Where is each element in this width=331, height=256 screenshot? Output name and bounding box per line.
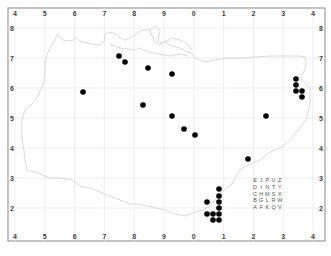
tetrad-letter: V — [278, 204, 282, 210]
record-dot — [204, 211, 210, 217]
y-label-left: 4 — [10, 145, 14, 152]
x-label-bottom: 3 — [281, 233, 285, 240]
x-label-top: 0 — [192, 10, 196, 17]
x-label-top: 6 — [73, 10, 77, 17]
record-dot — [169, 113, 175, 119]
record-dot — [122, 59, 128, 65]
record-dot — [299, 94, 305, 100]
tetrad-letter: M — [265, 191, 270, 197]
tetrad-letter: J — [260, 177, 263, 183]
y-label-left: 2 — [10, 205, 14, 212]
x-label-top: 1 — [222, 10, 226, 17]
y-label-right: 6 — [319, 85, 323, 92]
y-label-right: 5 — [319, 115, 323, 122]
y-label-right: 3 — [319, 175, 323, 182]
x-label-bottom: 6 — [73, 233, 77, 240]
record-dot — [216, 217, 222, 223]
tetrad-letter: K — [266, 204, 270, 210]
record-dot — [204, 199, 210, 205]
y-label-right: 7 — [319, 55, 323, 62]
x-label-bottom: 2 — [251, 233, 255, 240]
tetrad-letter: C — [253, 191, 257, 197]
x-label-bottom: 5 — [43, 233, 47, 240]
tetrad-letter: Q — [271, 204, 276, 210]
x-label-bottom: 8 — [132, 233, 136, 240]
tetrad-letter: P — [266, 177, 270, 183]
record-dot — [181, 126, 187, 132]
tetrad-letter: S — [272, 191, 276, 197]
record-dot — [145, 65, 151, 71]
x-label-bottom: 0 — [192, 233, 196, 240]
y-label-left: 7 — [10, 55, 14, 62]
record-dot — [116, 53, 122, 59]
record-dot — [192, 132, 198, 138]
y-label-right: 8 — [319, 25, 323, 32]
x-label-top: 8 — [132, 10, 136, 17]
y-label-left: 8 — [10, 25, 14, 32]
x-label-bottom: 4 — [13, 233, 17, 240]
x-label-top: 4 — [311, 10, 315, 17]
record-dot — [245, 156, 251, 162]
record-dot — [293, 82, 299, 88]
x-label-bottom: 7 — [102, 233, 106, 240]
record-dot — [293, 76, 299, 82]
x-label-bottom: 4 — [311, 233, 315, 240]
record-dot — [80, 89, 86, 95]
tetrad-letter: D — [253, 184, 257, 190]
tetrad-letter: R — [272, 197, 276, 203]
y-label-right: 4 — [319, 145, 323, 152]
x-label-top: 7 — [102, 10, 106, 17]
x-label-top: 5 — [43, 10, 47, 17]
tetrad-letter: N — [265, 184, 269, 190]
tetrad-letter: X — [278, 191, 282, 197]
y-label-right: 2 — [319, 205, 323, 212]
record-dot — [140, 102, 146, 108]
record-dot — [169, 71, 175, 77]
x-label-bottom: 9 — [162, 233, 166, 240]
y-label-left: 6 — [10, 85, 14, 92]
record-dot — [293, 88, 299, 94]
x-label-top: 9 — [162, 10, 166, 17]
record-dot — [216, 205, 222, 211]
record-dot — [210, 217, 216, 223]
tetrad-letter: B — [253, 197, 257, 203]
y-label-left: 3 — [10, 175, 14, 182]
x-label-bottom: 1 — [222, 233, 226, 240]
record-dot — [216, 199, 222, 205]
tetrad-letter: W — [277, 197, 283, 203]
record-dot — [263, 113, 269, 119]
tetrad-letter: G — [259, 197, 263, 203]
tetrad-letter: Y — [278, 184, 282, 190]
record-dot — [216, 211, 222, 217]
record-dot — [299, 88, 305, 94]
record-dot — [210, 211, 216, 217]
tetrad-letter: L — [266, 197, 269, 203]
tetrad-letter: U — [272, 177, 276, 183]
x-label-top: 2 — [251, 10, 255, 17]
x-label-top: 4 — [13, 10, 17, 17]
x-label-top: 3 — [281, 10, 285, 17]
record-dot — [216, 186, 222, 192]
y-label-left: 5 — [10, 115, 14, 122]
tetrad-letter: H — [259, 191, 263, 197]
record-dot — [216, 193, 222, 199]
tetrad-letter: E — [253, 177, 257, 183]
distribution-map: 445566778899001122334488776655443322 EJP… — [0, 0, 331, 256]
tetrad-letter: A — [253, 204, 257, 210]
